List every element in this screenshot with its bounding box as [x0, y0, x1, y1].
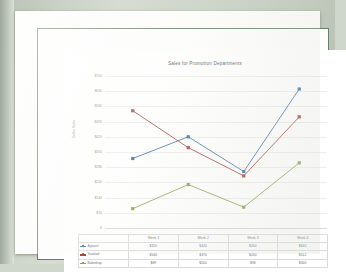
- y-tick-label: $140: [94, 196, 102, 200]
- data-point-marker: [298, 161, 301, 164]
- y-tick-label: $210: [94, 180, 102, 184]
- table-cell: $96: [228, 259, 278, 267]
- table-column-header: Week 2: [178, 235, 228, 243]
- series-line: [133, 163, 300, 209]
- table-row-header: Bakeshop: [79, 259, 129, 267]
- paper-sheet: Sales for Promotion Departments Dollar S…: [15, 11, 320, 254]
- series-layer: [105, 76, 327, 228]
- y-tick-label: $280: [94, 165, 102, 169]
- legend-swatch-icon: [80, 254, 86, 255]
- series-name: Apparel: [88, 244, 99, 248]
- data-point-marker: [242, 206, 245, 209]
- table-cell: $240: [228, 251, 278, 259]
- data-point-marker: [298, 87, 301, 90]
- gridline: [105, 228, 327, 229]
- table-row: Bakeshop$89$200$96$300: [79, 259, 328, 267]
- table-row: Seafood$540$370$240$512: [79, 251, 328, 259]
- table-cell: $512: [278, 251, 328, 259]
- table-cell: $89: [129, 259, 179, 267]
- line-chart: Sales for Promotion Departments Dollar S…: [64, 50, 346, 272]
- y-axis-label: Dollar Sales: [72, 120, 76, 138]
- series-name: Seafood: [88, 252, 100, 256]
- printed-frame: Sales for Promotion Departments Dollar S…: [37, 28, 329, 260]
- data-point-marker: [187, 146, 190, 149]
- y-tick-label: $350: [94, 150, 102, 154]
- table-body: Apparel$320$420$260$640Seafood$540$370$2…: [79, 243, 328, 268]
- legend-swatch-icon: [80, 246, 86, 247]
- legend-marker-icon: [82, 253, 84, 255]
- data-point-marker: [187, 135, 190, 138]
- table-row: Apparel$320$420$260$640: [79, 243, 328, 251]
- series-line: [133, 89, 300, 172]
- table-row-header: Seafood: [79, 251, 129, 259]
- table-column-header: Week 3: [228, 235, 278, 243]
- data-point-marker: [242, 174, 245, 177]
- series-line: [133, 111, 300, 176]
- data-table: Week 1Week 2Week 3Week 4 Apparel$320$420…: [78, 234, 328, 264]
- table-column-header: Week 1: [129, 235, 179, 243]
- legend-swatch-icon: [80, 263, 86, 264]
- table-cell: $540: [129, 251, 179, 259]
- table-cell: $320: [129, 243, 179, 251]
- table-cell: $370: [178, 251, 228, 259]
- y-tick-label: $490: [94, 120, 102, 124]
- y-tick-label: $630: [94, 89, 102, 93]
- table-cell: $200: [178, 259, 228, 267]
- table-cell: $420: [178, 243, 228, 251]
- legend-marker-icon: [82, 262, 84, 264]
- data-point-marker: [131, 157, 134, 160]
- chart-title: Sales for Promotion Departments: [64, 61, 346, 66]
- table-cell: $260: [228, 243, 278, 251]
- table-row-header: Apparel: [79, 243, 129, 251]
- y-tick-label: $420: [94, 135, 102, 139]
- table-corner: [79, 235, 129, 243]
- data-point-marker: [242, 170, 245, 173]
- table-cell: $300: [278, 259, 328, 267]
- series-name: Bakeshop: [88, 261, 102, 265]
- y-tick-label: $700: [94, 74, 102, 78]
- plot-area: 0$70$140$210$280$350$420$490$560$630$700: [105, 76, 327, 228]
- table-column-header: Week 4: [278, 235, 328, 243]
- y-tick-label: $70: [96, 211, 102, 215]
- y-tick-label: $560: [94, 104, 102, 108]
- y-tick-label: 0: [100, 226, 102, 230]
- data-point-marker: [298, 115, 301, 118]
- data-point-marker: [131, 207, 134, 210]
- table-header-row: Week 1Week 2Week 3Week 4: [79, 235, 328, 243]
- data-point-marker: [131, 109, 134, 112]
- legend-marker-icon: [82, 245, 84, 247]
- table-cell: $640: [278, 243, 328, 251]
- data-point-marker: [187, 183, 190, 186]
